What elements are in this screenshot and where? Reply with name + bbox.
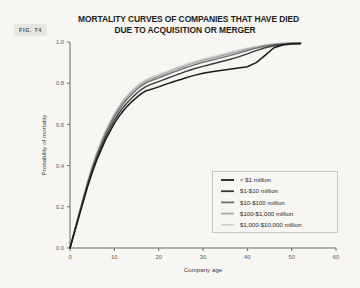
legend-label: < $1 million [240, 176, 271, 183]
legend-label: $100-$1,000 million [240, 210, 293, 217]
y-tick-label: 0.6 [56, 122, 64, 128]
x-tick-label: 0 [68, 254, 71, 260]
x-axis-ticks: 0102030405060 [68, 248, 339, 260]
figure-container: FIG. 74 MORTALITY CURVES OF COMPANIES TH… [0, 0, 360, 288]
x-tick-label: 40 [244, 254, 250, 260]
y-tick-label: 0.8 [56, 80, 64, 86]
legend-items: < $1 million$1-$10 million$10-$100 milli… [221, 176, 302, 228]
y-tick-label: 0.4 [56, 163, 65, 169]
legend-label: $1-$10 million [240, 187, 278, 194]
x-axis-label: Company age [184, 266, 223, 273]
legend-label: $10-$100 million [240, 199, 285, 206]
x-tick-label: 60 [333, 254, 339, 260]
series-line [70, 44, 301, 248]
x-tick-label: 50 [288, 254, 294, 260]
x-tick-label: 10 [111, 254, 117, 260]
data-series-group [70, 43, 301, 248]
legend-label: $1,000-$10,000 million [240, 221, 302, 228]
y-tick-label: 0.0 [56, 245, 64, 251]
y-axis-label: Probability of mortality [40, 114, 47, 176]
x-tick-label: 20 [155, 254, 161, 260]
series-line [70, 43, 301, 248]
y-axis-ticks: 0.00.20.40.60.81.0 [56, 39, 70, 251]
y-tick-label: 0.2 [56, 204, 64, 210]
chart-legend: < $1 million$1-$10 million$10-$100 milli… [213, 172, 338, 233]
y-tick-label: 1.0 [56, 39, 64, 45]
chart-plot: 0.00.20.40.60.81.0 0102030405060 Probabi… [0, 0, 360, 288]
x-tick-label: 30 [200, 254, 206, 260]
series-line [70, 43, 301, 248]
series-line [70, 43, 301, 248]
series-line [70, 43, 301, 248]
